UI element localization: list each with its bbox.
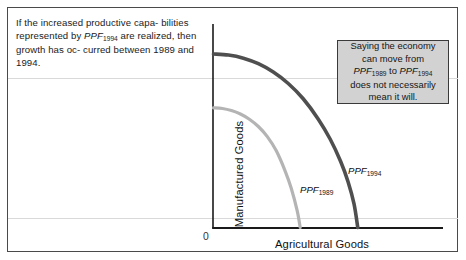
x-axis-label: Agricultural Goods xyxy=(275,238,369,250)
curve-label-ppf-1994: PPF1994 xyxy=(348,165,381,176)
callout-line-3-mid: to xyxy=(386,65,399,76)
origin-label: 0 xyxy=(203,231,209,242)
callout-line-1: Saying the economy xyxy=(351,40,436,52)
caption-line-2-suffix: are xyxy=(118,30,135,41)
callout-line-5: mean it will. xyxy=(369,91,418,103)
callout-ppf-1989-subscript: 1989 xyxy=(372,70,387,77)
curve-label-ppf-1994-base: PPF xyxy=(348,165,367,176)
caption-line-1: If the increased productive capa- xyxy=(16,17,158,28)
callout-ppf-1994-subscript: 1994 xyxy=(418,70,433,77)
curve-label-ppf-1989: PPF1989 xyxy=(300,184,333,195)
curve-label-ppf-1994-subscript: 1994 xyxy=(367,170,382,177)
callout-line-4: does not necessarily xyxy=(350,79,435,91)
callout-line-2: can move from xyxy=(362,53,424,65)
y-axis-label: Manufactured Goods xyxy=(233,104,245,244)
curve-label-ppf-1989-base: PPF xyxy=(300,184,319,195)
annotation-callout: Saying the economy can move from PPF1989… xyxy=(337,40,449,104)
callout-ppf-1994: PPF xyxy=(400,65,418,76)
caption-text: If the increased productive capa- biliti… xyxy=(16,16,198,69)
y-axis-label-wrapper: Manufactured Goods xyxy=(196,60,210,220)
caption-ppf-1994: PPF xyxy=(84,30,103,41)
callout-ppf-1989: PPF xyxy=(354,65,372,76)
callout-line-3: PPF1989 to PPF1994 xyxy=(354,65,433,78)
caption-ppf-1994-subscript: 1994 xyxy=(103,35,118,42)
figure-container: If the increased productive capa- biliti… xyxy=(0,0,466,260)
curve-label-ppf-1989-subscript: 1989 xyxy=(319,189,334,196)
